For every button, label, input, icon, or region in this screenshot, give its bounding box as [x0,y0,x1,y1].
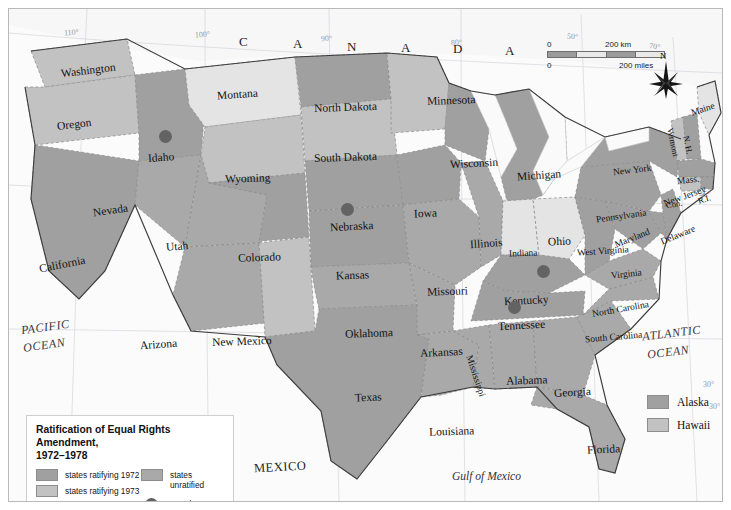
state-wyoming [201,115,305,183]
inset-row-hawaii: Hawaii [647,418,710,432]
inset-swatch-hawaii [647,418,669,432]
legend-label-rescinding: states later rescinding ERA [165,498,222,502]
legend-entries: states ratifying 1972 states ratifying 1… [36,469,225,502]
state-kansas [309,205,409,267]
scale-bar-km-zero: 0 [547,40,551,49]
state-oklahoma [311,263,417,309]
compass-star-icon [643,53,689,107]
legend-swatch-1972 [36,469,58,481]
inset-legend: Alaska Hawaii [647,395,710,441]
state-minnesota [387,53,449,133]
legend-title-line2: 1972–1978 [36,449,225,462]
rescind-dot-nebraska [341,203,354,216]
state-indiana [501,199,539,255]
state-connecticut [679,177,701,191]
compass-rose: N [643,53,689,107]
state-iowa [397,145,461,205]
state-north-dakota [295,53,391,107]
legend-label-1972: states ratifying 1972 [65,469,139,480]
legend-swatch-unratified [141,469,163,481]
legend-row-rescinding: states later rescinding ERA [141,498,225,502]
legend-label-1973: states ratifying 1973 [65,485,139,496]
state-south-dakota [301,99,397,161]
rescind-dot-kentucky [537,265,550,278]
map-frame: .st{stroke:#8a8a8a;stroke-width:.7;strok… [8,8,723,502]
legend-swatch-1974-77 [36,501,58,502]
inset-swatch-alaska [647,395,669,409]
state-massachusetts [677,159,715,177]
legend-label-unratified: states unratified [170,469,225,491]
compass-north-label: N [660,51,667,61]
inset-row-alaska: Alaska [647,395,710,409]
state-nebraska [305,155,403,211]
rescind-dot-idaho [159,130,172,143]
map-legend: Ratification of Equal Rights Amendment, … [26,415,234,502]
legend-dot-rescinding [145,498,158,502]
state-arizona [173,243,265,331]
legend-column-right: states unratified states later rescindin… [141,469,225,502]
inset-label-hawaii: Hawaii [677,419,710,431]
state-alabama [489,321,537,389]
map-root: .st{stroke:#8a8a8a;stroke-width:.7;strok… [0,0,731,510]
legend-label-1974-77: states ratifying 1974–77 [65,501,153,502]
legend-title: Ratification of Equal Rights Amendment, … [36,423,225,463]
legend-swatch-1973 [36,485,58,497]
legend-row-unratified: states unratified [141,469,225,491]
scale-bar-miles-zero: 0 [547,61,551,70]
state-rhode-island [701,177,713,189]
legend-title-line1: Ratification of Equal Rights Amendment, [36,423,225,449]
inset-label-alaska: Alaska [677,396,709,408]
state-new-mexico [259,237,315,337]
legend-label-rescinding-line1: states later [165,499,206,502]
scale-bar-km-label: 200 km [605,40,631,49]
rescind-dot-tennessee [508,301,521,314]
